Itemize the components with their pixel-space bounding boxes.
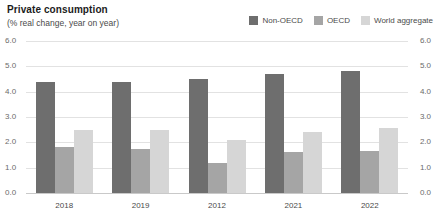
y-axis-tick-label: 0.0 <box>420 189 431 197</box>
legend-swatch-icon <box>314 16 323 25</box>
y-axis-tick-label: 3.0 <box>420 113 431 121</box>
bar[interactable] <box>150 130 169 193</box>
bar-group <box>332 36 408 193</box>
bar[interactable] <box>265 74 284 193</box>
chart-title: Private consumption <box>7 4 108 15</box>
legend-item-world-aggregate[interactable]: World aggregate <box>361 16 433 25</box>
x-axis-tick-label: 2022 <box>332 194 408 216</box>
bar[interactable] <box>112 82 131 193</box>
bar-groups <box>26 36 408 193</box>
chart-legend: Non-OECD OECD World aggregate <box>249 16 433 25</box>
x-axis-tick-label: 2021 <box>255 194 331 216</box>
x-axis-tick-label: 2018 <box>26 194 102 216</box>
bar[interactable] <box>379 128 398 193</box>
bar-group <box>26 36 102 193</box>
bar-group <box>102 36 178 193</box>
bar[interactable] <box>208 163 227 193</box>
bar[interactable] <box>189 79 208 193</box>
y-axis-tick-label: 5.0 <box>420 62 431 70</box>
chart-plot-area: 6.05.04.03.02.01.00.0 6.05.04.03.02.01.0… <box>0 36 436 222</box>
bar[interactable] <box>284 152 303 193</box>
bar[interactable] <box>55 147 74 193</box>
legend-swatch-icon <box>361 16 370 25</box>
legend-label: Non-OECD <box>262 16 302 25</box>
bar[interactable] <box>131 149 150 193</box>
bar[interactable] <box>303 132 322 193</box>
bar[interactable] <box>227 140 246 193</box>
x-axis-categories: 20182019201220212022 <box>26 194 408 216</box>
y-axis-tick-label: 1.0 <box>420 164 431 172</box>
x-axis-tick-label: 2012 <box>179 194 255 216</box>
y-axis-tick-label: 0.0 <box>5 189 16 197</box>
legend-item-non-oecd[interactable]: Non-OECD <box>249 16 302 25</box>
chart-header: Private consumption (% real change, year… <box>0 0 436 34</box>
legend-label: World aggregate <box>374 16 433 25</box>
y-axis-tick-label: 6.0 <box>5 37 16 45</box>
y-axis-tick-label: 4.0 <box>5 88 16 96</box>
y-axis-tick-label: 6.0 <box>420 37 431 45</box>
y-axis-tick-label: 1.0 <box>5 164 16 172</box>
x-axis-tick-label: 2019 <box>102 194 178 216</box>
bar[interactable] <box>36 82 55 193</box>
bar[interactable] <box>341 71 360 193</box>
y-axis-tick-label: 5.0 <box>5 62 16 70</box>
legend-item-oecd[interactable]: OECD <box>314 16 350 25</box>
y-axis-tick-label: 4.0 <box>420 88 431 96</box>
bar-group <box>179 36 255 193</box>
y-axis-tick-label: 3.0 <box>5 113 16 121</box>
chart-subtitle: (% real change, year on year) <box>7 18 119 28</box>
legend-swatch-icon <box>249 16 258 25</box>
y-axis-tick-label: 2.0 <box>5 138 16 146</box>
bar[interactable] <box>74 130 93 193</box>
bar[interactable] <box>360 151 379 193</box>
legend-label: OECD <box>327 16 350 25</box>
bar-group <box>255 36 331 193</box>
y-axis-tick-label: 2.0 <box>420 138 431 146</box>
